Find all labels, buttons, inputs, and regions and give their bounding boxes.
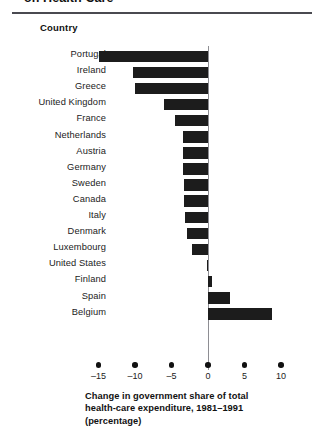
category-label: Austria xyxy=(76,146,106,156)
tick-label: 5 xyxy=(229,371,261,381)
tick-label: 10 xyxy=(265,371,297,381)
bar xyxy=(192,244,208,256)
category-label: Denmark xyxy=(68,226,106,236)
bar xyxy=(184,195,208,207)
chart-row: Austria xyxy=(0,145,323,161)
bar xyxy=(164,99,208,111)
tick-dot-icon xyxy=(205,362,211,368)
x-axis: –15–10–50510 xyxy=(0,362,323,388)
category-label: United States xyxy=(49,258,106,268)
chart-figure: on Health Care Country PortugalIrelandGr… xyxy=(0,0,323,432)
bar xyxy=(208,276,212,288)
bar xyxy=(135,83,208,95)
caption-line: (percentage) xyxy=(85,415,315,427)
bar xyxy=(208,292,230,304)
chart-row: France xyxy=(0,112,323,128)
category-label: United Kingdom xyxy=(38,97,106,107)
bar xyxy=(208,308,272,320)
caption-line: health-care expenditure, 1981–1991 xyxy=(85,402,315,414)
bar xyxy=(133,67,208,79)
tick-dot-icon xyxy=(132,362,138,368)
chart-row: Luxembourg xyxy=(0,241,323,257)
column-header-country: Country xyxy=(40,22,78,33)
chart-row: Belgium xyxy=(0,306,323,322)
category-label: Finland xyxy=(75,274,106,284)
category-label: Greece xyxy=(75,81,106,91)
bar xyxy=(183,163,208,175)
chart-row: Greece xyxy=(0,80,323,96)
category-label: Italy xyxy=(88,210,106,220)
bar xyxy=(175,115,208,127)
chart-row: Finland xyxy=(0,273,323,289)
bar xyxy=(183,131,208,143)
category-label: Sweden xyxy=(72,178,106,188)
chart-row: Netherlands xyxy=(0,129,323,145)
category-label: France xyxy=(76,113,106,123)
tick-label: –15 xyxy=(83,371,115,381)
bar xyxy=(183,147,208,159)
chart-row: Sweden xyxy=(0,177,323,193)
category-label: Canada xyxy=(73,194,106,204)
bar xyxy=(187,228,208,240)
chart-row: United Kingdom xyxy=(0,96,323,112)
tick-dot-icon xyxy=(96,362,102,368)
bar xyxy=(99,51,208,63)
plot-area: PortugalIrelandGreeceUnited KingdomFranc… xyxy=(0,44,323,356)
tick-dot-icon xyxy=(169,362,175,368)
tick-label: 0 xyxy=(192,371,224,381)
caption-line: Change in government share of total xyxy=(85,390,315,402)
bar xyxy=(184,179,208,191)
chart-row: Denmark xyxy=(0,225,323,241)
chart-row: Spain xyxy=(0,290,323,306)
bar xyxy=(207,260,208,272)
category-label: Spain xyxy=(82,291,106,301)
chart-row: Ireland xyxy=(0,64,323,80)
category-label: Ireland xyxy=(77,65,106,75)
category-label: Belgium xyxy=(72,307,106,317)
chart-row: United States xyxy=(0,257,323,273)
x-axis-caption: Change in government share of totalhealt… xyxy=(85,390,315,427)
tick-dot-icon xyxy=(278,362,284,368)
tick-dot-icon xyxy=(242,362,248,368)
chart-row: Italy xyxy=(0,209,323,225)
chart-row: Canada xyxy=(0,193,323,209)
category-label: Germany xyxy=(67,162,106,172)
bar xyxy=(185,212,208,224)
chart-row: Portugal xyxy=(0,48,323,64)
category-label: Netherlands xyxy=(55,130,106,140)
tick-label: –10 xyxy=(119,371,151,381)
tick-label: –5 xyxy=(156,371,188,381)
category-label: Luxembourg xyxy=(53,242,106,252)
chart-title: on Health Care xyxy=(24,0,314,4)
chart-row: Germany xyxy=(0,161,323,177)
title-divider xyxy=(12,12,312,14)
